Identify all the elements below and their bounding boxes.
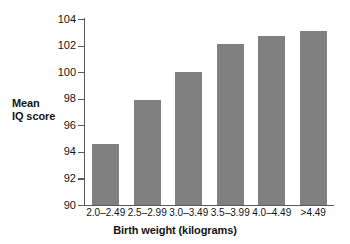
y-axis-tick-label: 98 [52,93,76,104]
y-axis-tick-label: 90 [52,200,76,211]
y-axis-tick-label: 96 [52,120,76,131]
y-axis-tick [78,46,84,47]
y-axis-tick-label: 100 [52,67,76,78]
y-axis-tick [78,205,84,206]
bar [258,36,285,205]
y-axis-tick-label: 94 [52,146,76,157]
bar [134,100,161,205]
y-axis-tick [78,99,84,100]
x-axis-tick-labels: 2.0–2.492.5–2.993.0–3.493.5–3.994.0–4.49… [85,207,334,220]
bar [92,144,119,205]
y-axis-tick-label: 102 [52,40,76,51]
y-axis-tick [78,178,84,179]
y-axis-tick-label: 104 [52,14,76,25]
y-axis-tick-labels: 9092949698100102104 [52,0,76,244]
bar-chart: Mean IQ score 9092949698100102104 2.0–2.… [0,0,350,244]
bars-group [85,19,334,205]
bar [175,72,202,205]
x-axis-tick-label: >4.49 [289,207,337,219]
y-axis-tick [78,125,84,126]
bar [300,31,327,205]
y-axis-tick [78,152,84,153]
y-axis-tick-label: 92 [52,173,76,184]
y-axis-tick [78,19,84,20]
bar [217,44,244,205]
y-axis-tick [78,72,84,73]
x-axis-title: Birth weight (kilograms) [0,224,350,236]
